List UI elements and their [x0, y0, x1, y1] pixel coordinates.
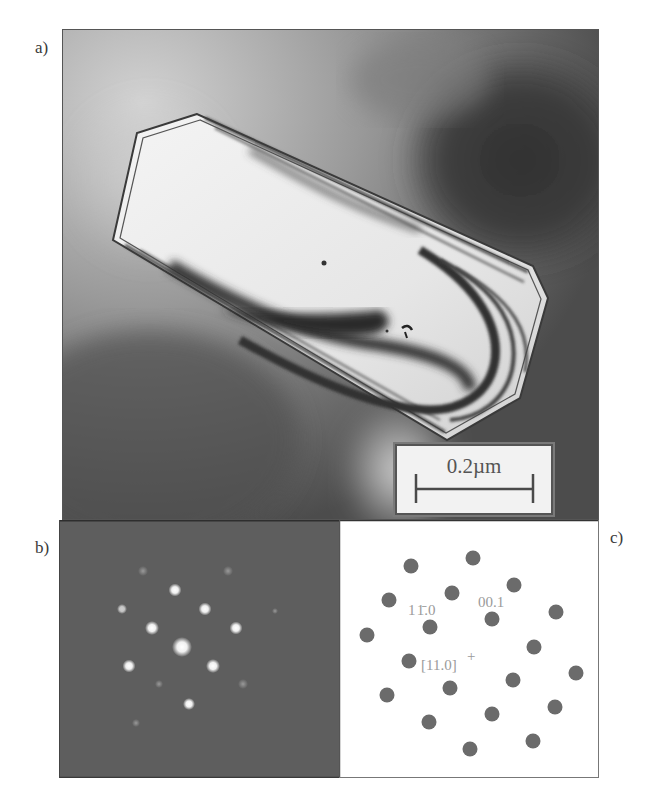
- zone-axis-label: [11.0]: [421, 657, 457, 673]
- scale-bar-label: 0.2µm: [447, 454, 502, 478]
- panel-label-b: b): [35, 538, 49, 558]
- diffraction-pattern-image: [59, 520, 339, 778]
- panel-c-schematic: 1 1̄.0 00.1 [11.0] +: [339, 520, 599, 778]
- panel-a-micrograph: 0.2µm: [62, 29, 599, 520]
- spot-label-11-0: 1 1̄.0: [408, 602, 436, 618]
- panel-b-diffraction: [59, 520, 339, 778]
- panel-label-a: a): [35, 38, 48, 58]
- zone-axis-marker: +: [467, 648, 475, 664]
- micrograph-image: 0.2µm: [62, 29, 599, 520]
- spot-label-00-1: 00.1: [478, 594, 504, 610]
- panel-label-c: c): [610, 528, 623, 548]
- indexed-pattern-schematic: 1 1̄.0 00.1 [11.0] +: [339, 520, 599, 778]
- scale-bar: 0.2µm: [393, 442, 555, 517]
